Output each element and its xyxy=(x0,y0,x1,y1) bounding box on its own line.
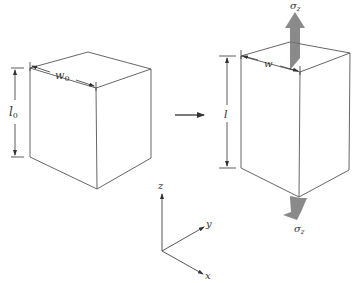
sigma-z-top-label: σz xyxy=(290,0,301,13)
stress-arrow-down-icon xyxy=(283,196,307,220)
w0-label: w0 xyxy=(55,69,70,83)
y-axis xyxy=(162,227,204,251)
l0-label: l0 xyxy=(9,105,18,120)
uniaxial-tension-diagram: w0 l0 σz w l σz xyxy=(0,0,357,283)
w-label: w xyxy=(264,58,273,69)
y-axis-label: y xyxy=(205,218,212,229)
x-axis xyxy=(162,251,203,274)
coordinate-axes: z y x xyxy=(157,180,212,281)
stress-arrow-up-icon xyxy=(285,12,305,70)
l-label: l xyxy=(224,108,228,121)
z-axis-label: z xyxy=(157,180,164,191)
sigma-z-bottom-label: σz xyxy=(294,223,305,236)
x-axis-label: x xyxy=(205,270,211,281)
initial-block-top-face xyxy=(30,52,151,88)
initial-block: w0 l0 xyxy=(9,52,151,189)
deformed-block: w l xyxy=(219,42,350,197)
